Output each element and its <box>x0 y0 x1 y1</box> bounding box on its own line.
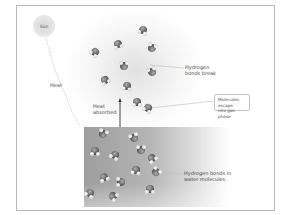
bonds-in-water-label: Hydrogen bonds in water molecules <box>184 170 231 182</box>
heat-label: Heat <box>50 82 62 88</box>
escape-callout: Molecules escape into gas phase <box>214 94 250 111</box>
sun-icon: Sun <box>33 15 55 37</box>
gas-molecules <box>88 25 158 115</box>
bonds-break-label: Hydrogen bonds break <box>185 64 216 76</box>
sun-label: Sun <box>40 24 49 29</box>
heat-absorbed-label: Heat absorbed <box>93 103 116 115</box>
liquid-molecules <box>83 128 163 203</box>
